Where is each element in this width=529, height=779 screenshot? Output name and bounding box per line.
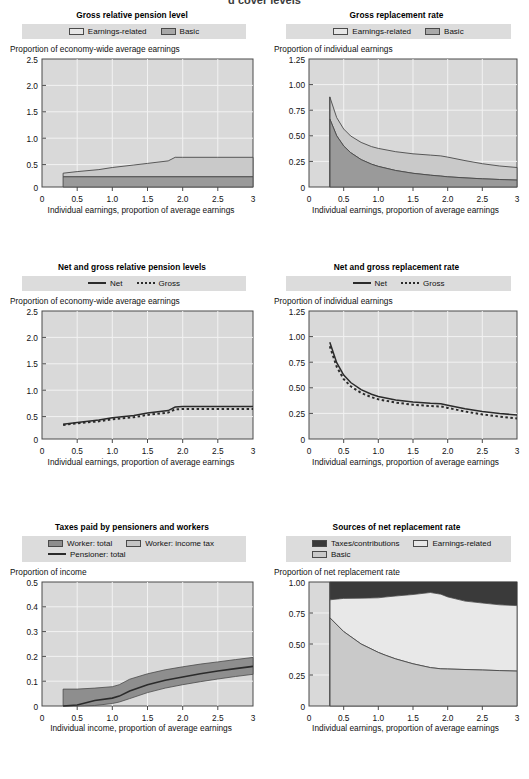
legend-label: Earnings-related bbox=[432, 539, 491, 548]
figure-page: g cover levels Gross relative pension le… bbox=[0, 0, 529, 779]
swatch-basic-icon bbox=[161, 28, 176, 35]
x-ticks bbox=[77, 706, 218, 710]
plot-area: 2.5 2.0 1.5 1.0 0.5 0 0 0.5 1.0 1.5 2.0 … bbox=[10, 307, 264, 457]
y-axis-caption: Proportion of economy-wide average earni… bbox=[10, 44, 264, 54]
svg-text:2.5: 2.5 bbox=[212, 713, 224, 723]
panel-title: Sources of net replacement rate bbox=[264, 520, 529, 532]
legend-item-basic[interactable]: Basic bbox=[161, 27, 200, 36]
legend-label: Pensioner: total bbox=[70, 550, 126, 559]
svg-text:0: 0 bbox=[40, 194, 45, 204]
y-tick-labels: 1.00 0.75 0.50 0.25 0 bbox=[289, 578, 306, 712]
swatch-earnings-related-icon bbox=[413, 540, 428, 547]
panel-sources-of-net-replacement-rate: Sources of net replacement rate Taxes/co… bbox=[264, 520, 529, 779]
chart-svg-net-and-gross-replacement-rate: 1.25 1.00 0.75 0.50 0.25 0 0 0.5 1.0 1.5… bbox=[274, 307, 524, 457]
svg-text:2.0: 2.0 bbox=[177, 194, 189, 204]
swatch-basic-icon bbox=[425, 28, 440, 35]
legend: Earnings-related Basic bbox=[286, 24, 511, 39]
legend-label: Taxes/contributions bbox=[331, 539, 399, 548]
svg-text:1.0: 1.0 bbox=[26, 386, 38, 396]
dotted-line-icon bbox=[401, 282, 419, 284]
legend-item-earnings-related[interactable]: Earnings-related bbox=[413, 539, 491, 548]
svg-text:0.5: 0.5 bbox=[26, 578, 38, 588]
legend-item-earnings-related[interactable]: Earnings-related bbox=[333, 27, 411, 36]
svg-text:2.0: 2.0 bbox=[26, 81, 38, 91]
x-ticks bbox=[344, 706, 483, 710]
svg-text:0.50: 0.50 bbox=[289, 131, 306, 141]
legend-item-worker-total[interactable]: Worker: total bbox=[48, 539, 112, 548]
svg-text:1.00: 1.00 bbox=[289, 578, 306, 588]
y-tick-labels: 1.25 1.00 0.75 0.50 0.25 0 bbox=[289, 55, 306, 193]
svg-text:0.50: 0.50 bbox=[289, 640, 306, 650]
svg-text:0.75: 0.75 bbox=[289, 358, 306, 368]
panel-title: Taxes paid by pensioners and workers bbox=[0, 520, 264, 532]
svg-text:0: 0 bbox=[307, 446, 312, 456]
x-tick-labels: 0 0.5 1.0 1.5 2.0 2.5 3 bbox=[40, 446, 256, 456]
legend-item-earnings-related[interactable]: Earnings-related bbox=[69, 27, 147, 36]
legend-label: Basic bbox=[444, 27, 464, 36]
legend-item-gross[interactable]: Gross bbox=[137, 279, 180, 288]
plot-area: 0.5 0.4 0.3 0.2 0.1 0 0 0.5 1.0 1.5 2.0 … bbox=[10, 578, 264, 723]
svg-text:3: 3 bbox=[515, 713, 520, 723]
legend-item-net[interactable]: Net bbox=[353, 279, 387, 288]
legend-label: Worker: total bbox=[67, 539, 112, 548]
panel-taxes-paid-by-pensioners-and-workers: Taxes paid by pensioners and workers Wor… bbox=[0, 520, 264, 779]
panel-gross-replacement-rate: Gross replacement rate Earnings-related … bbox=[264, 8, 529, 260]
legend-item-worker-income-tax[interactable]: Worker: income tax bbox=[126, 539, 214, 548]
svg-text:0.5: 0.5 bbox=[26, 412, 38, 422]
svg-text:2.0: 2.0 bbox=[26, 333, 38, 343]
svg-text:2.5: 2.5 bbox=[477, 713, 489, 723]
x-axis-caption: Individual income, proportion of average… bbox=[0, 723, 264, 733]
area-basic bbox=[63, 177, 253, 187]
svg-text:0: 0 bbox=[300, 435, 305, 445]
svg-text:1.00: 1.00 bbox=[289, 80, 306, 90]
svg-text:2.5: 2.5 bbox=[477, 446, 489, 456]
svg-text:1.00: 1.00 bbox=[289, 332, 306, 342]
legend-item-net[interactable]: Net bbox=[88, 279, 122, 288]
legend-label: Net bbox=[110, 279, 122, 288]
svg-text:1.5: 1.5 bbox=[26, 107, 38, 117]
svg-text:0.75: 0.75 bbox=[289, 106, 306, 116]
svg-text:1.25: 1.25 bbox=[289, 307, 306, 317]
legend-label: Earnings-related bbox=[88, 27, 147, 36]
svg-text:0.5: 0.5 bbox=[71, 446, 83, 456]
legend: Net Gross bbox=[22, 276, 246, 291]
svg-text:3: 3 bbox=[515, 446, 520, 456]
x-ticks bbox=[77, 187, 218, 191]
svg-text:0.5: 0.5 bbox=[338, 446, 350, 456]
svg-text:1.0: 1.0 bbox=[373, 194, 385, 204]
x-tick-labels: 0 0.5 1.0 1.5 2.0 2.5 3 bbox=[40, 713, 256, 723]
svg-text:1.0: 1.0 bbox=[26, 134, 38, 144]
solid-line-icon bbox=[88, 282, 106, 284]
legend-item-pensioner-total[interactable]: Pensioner: total bbox=[48, 550, 242, 559]
svg-text:3: 3 bbox=[251, 194, 256, 204]
chart-svg-net-and-gross-relative-pension-levels: 2.5 2.0 1.5 1.0 0.5 0 0 0.5 1.0 1.5 2.0 … bbox=[10, 307, 260, 457]
swatch-earnings-related-icon bbox=[333, 28, 348, 35]
svg-text:3: 3 bbox=[251, 713, 256, 723]
legend-item-basic[interactable]: Basic bbox=[312, 550, 507, 559]
legend-item-basic[interactable]: Basic bbox=[425, 27, 464, 36]
svg-text:1.5: 1.5 bbox=[142, 446, 154, 456]
x-tick-labels: 0 0.5 1.0 1.5 2.0 2.5 3 bbox=[307, 194, 520, 204]
svg-text:2.5: 2.5 bbox=[212, 446, 224, 456]
svg-text:1.5: 1.5 bbox=[407, 713, 419, 723]
y-axis-caption: Proportion of individual earnings bbox=[274, 296, 529, 306]
svg-text:0.50: 0.50 bbox=[289, 383, 306, 393]
y-axis-caption: Proportion of individual earnings bbox=[274, 44, 529, 54]
y-axis-caption: Proportion of net replacement rate bbox=[274, 567, 529, 577]
chart-svg-taxes-paid-by-pensioners-and-workers: 0.5 0.4 0.3 0.2 0.1 0 0 0.5 1.0 1.5 2.0 … bbox=[10, 578, 260, 723]
legend-label: Earnings-related bbox=[352, 27, 411, 36]
plot-area: 1.25 1.00 0.75 0.50 0.25 0 0 0.5 1.0 1.5… bbox=[274, 307, 529, 457]
legend-label: Gross bbox=[423, 279, 444, 288]
svg-text:3: 3 bbox=[251, 446, 256, 456]
x-tick-labels: 0 0.5 1.0 1.5 2.0 2.5 3 bbox=[40, 194, 256, 204]
solid-line-icon bbox=[353, 282, 371, 284]
legend-label: Basic bbox=[180, 27, 200, 36]
svg-text:0: 0 bbox=[33, 702, 38, 712]
svg-text:0.4: 0.4 bbox=[26, 602, 38, 612]
svg-text:2.0: 2.0 bbox=[177, 446, 189, 456]
legend-item-gross[interactable]: Gross bbox=[401, 279, 444, 288]
panel-title: Net and gross replacement rate bbox=[264, 260, 529, 272]
svg-text:1.5: 1.5 bbox=[26, 359, 38, 369]
svg-text:0: 0 bbox=[40, 713, 45, 723]
legend-item-taxes-contributions[interactable]: Taxes/contributions bbox=[312, 539, 399, 548]
